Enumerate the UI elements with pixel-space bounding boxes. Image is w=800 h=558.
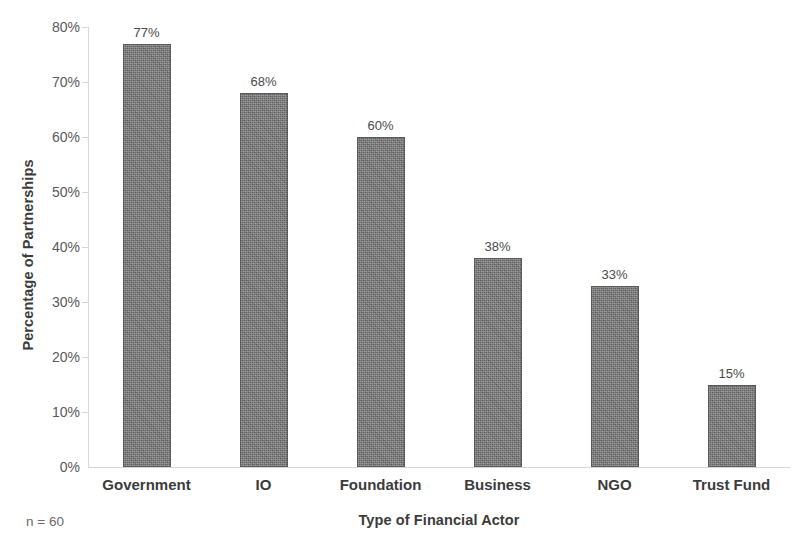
- x-axis-title: Type of Financial Actor: [88, 512, 790, 528]
- bar[interactable]: [240, 93, 288, 467]
- x-axis-line: [88, 467, 790, 468]
- bar-value-label: 68%: [250, 74, 276, 89]
- bar-value-label: 33%: [601, 267, 627, 282]
- y-axis-tick-mark: [82, 82, 88, 83]
- y-axis-tick-label: 20%: [4, 349, 80, 365]
- bar-slot: 77%: [88, 27, 205, 467]
- x-axis-category-label: Government: [102, 476, 190, 493]
- x-axis-category-labels: GovernmentIOFoundationBusinessNGOTrust F…: [88, 476, 790, 502]
- bar-slot: 38%: [439, 27, 556, 467]
- y-axis-tick-label: 80%: [4, 19, 80, 35]
- bar[interactable]: [591, 286, 639, 468]
- y-axis-tick-label: 30%: [4, 294, 80, 310]
- bar-value-label: 77%: [133, 25, 159, 40]
- sample-size-annotation: n = 60: [26, 514, 64, 529]
- bar[interactable]: [123, 44, 171, 468]
- bar-slot: 68%: [205, 27, 322, 467]
- bar-value-label: 60%: [367, 118, 393, 133]
- y-axis-tick-mark: [82, 357, 88, 358]
- y-axis-tick-mark: [82, 302, 88, 303]
- y-axis-tick-mark: [82, 137, 88, 138]
- bar-value-label: 38%: [484, 239, 510, 254]
- bar-slot: 33%: [556, 27, 673, 467]
- y-axis-tick-mark: [82, 27, 88, 28]
- plot-area: 77%68%60%38%33%15%: [88, 27, 790, 467]
- y-axis-tick-mark: [82, 192, 88, 193]
- bar-value-label: 15%: [718, 366, 744, 381]
- bar-slot: 15%: [673, 27, 790, 467]
- x-axis-category-label: Foundation: [340, 476, 422, 493]
- y-axis-tick-label: 40%: [4, 239, 80, 255]
- bar[interactable]: [708, 385, 756, 468]
- bar-slot: 60%: [322, 27, 439, 467]
- y-axis-tick-label: 0%: [4, 459, 80, 475]
- y-axis-tick-mark: [82, 247, 88, 248]
- y-axis-tick-label: 60%: [4, 129, 80, 145]
- y-axis-tick-labels: 0%10%20%30%40%50%60%70%80%: [0, 0, 80, 558]
- y-axis-tick-label: 10%: [4, 404, 80, 420]
- bar[interactable]: [474, 258, 522, 467]
- y-axis-tick-mark: [82, 412, 88, 413]
- y-axis-tick-label: 50%: [4, 184, 80, 200]
- x-axis-category-label: NGO: [597, 476, 631, 493]
- x-axis-category-label: Trust Fund: [693, 476, 771, 493]
- bar[interactable]: [357, 137, 405, 467]
- x-axis-category-label: IO: [256, 476, 272, 493]
- y-axis-tick-label: 70%: [4, 74, 80, 90]
- bar-chart: Percentage of Partnerships 0%10%20%30%40…: [0, 0, 800, 558]
- x-axis-category-label: Business: [464, 476, 531, 493]
